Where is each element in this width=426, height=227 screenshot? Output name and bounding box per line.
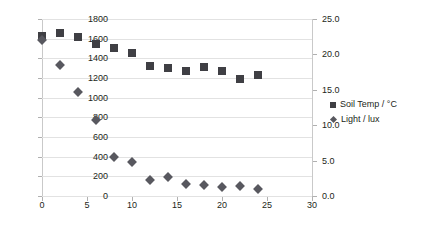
data-point [110,44,118,52]
x-axis-tick-mark [177,197,178,201]
x-axis-tick-label: 0 [39,201,44,210]
y-axis-right-tick-label: 15.0 [322,86,340,95]
x-axis-tick-label: 25 [262,201,272,210]
legend-item-label: Soil Temp / °C [340,100,397,109]
x-axis-tick-label: 10 [127,201,137,210]
y-axis-right-tick-label: 20.0 [322,50,340,59]
x-axis-tick-mark [222,197,223,201]
x-axis-tick-mark [42,197,43,201]
chart-legend: Soil Temp / °CLight / lux [330,98,397,128]
data-point [164,64,172,72]
data-point [146,62,154,70]
y-axis-right-tick-mark [313,90,317,91]
legend-diamond-icon [330,116,337,123]
data-point [218,67,226,75]
y-axis-right-tick-mark [313,196,317,197]
data-point [128,49,136,57]
y-axis-right-tick-label: 5.0 [322,157,335,166]
y-axis-right-line [312,19,313,197]
data-point [56,29,64,37]
x-axis-tick-label: 15 [172,201,182,210]
plot-area [42,19,312,196]
y-axis-right-tick-mark [313,161,317,162]
y-axis-right-tick-mark [313,54,317,55]
data-point [182,67,190,75]
legend-item[interactable]: Soil Temp / °C [330,98,397,111]
x-axis-tick-mark [267,197,268,201]
y-axis-right-tick-label: 0.0 [322,192,335,201]
legend-item-label: Light / lux [341,115,380,124]
y-axis-right-tick-mark [313,125,317,126]
x-axis-tick-mark [132,197,133,201]
data-point [236,75,244,83]
y-axis-right-tick-label: 25.0 [322,15,340,24]
data-point [200,63,208,71]
x-axis-tick-label: 5 [84,201,89,210]
x-axis-tick-mark [312,197,313,201]
data-point [92,40,100,48]
y-axis-right-tick-mark [313,19,317,20]
legend-item[interactable]: Light / lux [330,113,397,126]
x-axis-tick-label: 30 [307,201,317,210]
chart-container: 020040060080010001200140016001800 0.05.0… [0,0,426,227]
data-point [74,33,82,41]
x-axis-tick-label: 20 [217,201,227,210]
legend-square-icon [330,102,336,108]
x-axis-tick-mark [87,197,88,201]
data-point [254,71,262,79]
